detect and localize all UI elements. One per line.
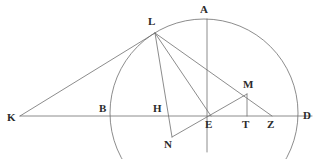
point-label-b: B xyxy=(99,103,106,114)
segment-LZ xyxy=(155,33,272,116)
point-label-a: A xyxy=(200,4,208,15)
point-label-k: K xyxy=(7,112,16,123)
point-label-e: E xyxy=(205,119,212,130)
segment-layer xyxy=(20,19,312,152)
point-label-l: L xyxy=(148,16,155,27)
point-label-t: T xyxy=(242,119,249,130)
segment-LN xyxy=(155,33,172,137)
segment-LE xyxy=(155,33,211,116)
segment-NM xyxy=(172,94,247,137)
point-label-h: H xyxy=(153,103,162,114)
geometry-canvas xyxy=(0,0,317,159)
circle-layer xyxy=(110,19,298,159)
point-label-n: N xyxy=(164,139,172,150)
point-label-z: Z xyxy=(267,119,274,130)
point-label-m: M xyxy=(243,79,253,90)
geometry-figure: ALMKBHETZDN xyxy=(0,0,317,159)
point-label-d: D xyxy=(303,110,311,121)
segment-KL xyxy=(20,33,155,116)
main-circle xyxy=(110,19,298,159)
